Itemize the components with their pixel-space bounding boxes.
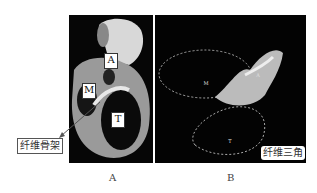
label-b-tricuspid: T [227, 137, 233, 145]
callout-fibrous-trigone: 纤维三角 [261, 146, 305, 160]
caption-a: A [109, 172, 116, 183]
label-b-aorta: A [255, 71, 261, 79]
label-b-mitral: M [203, 79, 209, 87]
callout-fibrous-skeleton: 纤维骨架 [17, 138, 63, 154]
caption-b: B [227, 172, 234, 183]
panel-b-photo: M A T 纤维三角 [155, 15, 306, 163]
